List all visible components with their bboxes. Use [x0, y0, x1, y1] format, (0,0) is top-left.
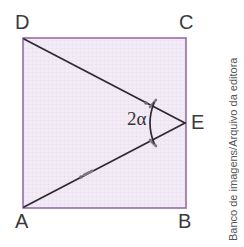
- tick-dot-ae: [79, 175, 83, 179]
- vertex-label-b: B: [178, 211, 191, 231]
- geometry-canvas: [0, 0, 244, 247]
- vertex-label-d: D: [15, 12, 29, 32]
- image-credit: Banco de imagens/Arquivo da editora: [224, 5, 242, 241]
- square-abcd: [23, 38, 186, 208]
- vertex-label-c: C: [179, 12, 193, 32]
- angle-label-2alpha: 2α: [127, 109, 146, 128]
- vertex-label-a: A: [15, 211, 28, 231]
- geometry-figure: D C A B E 2α Banco de imagens/Arquivo da…: [0, 0, 244, 247]
- vertex-label-e: E: [191, 112, 204, 132]
- tick-dot-de: [144, 101, 148, 105]
